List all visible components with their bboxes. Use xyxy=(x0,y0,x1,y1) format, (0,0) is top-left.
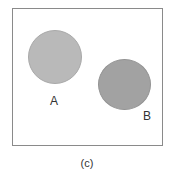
figure-caption: (c) xyxy=(0,158,174,169)
label-b: B xyxy=(143,110,151,122)
circle-b xyxy=(98,59,151,110)
label-a: A xyxy=(50,95,58,107)
circle-a xyxy=(28,30,82,84)
